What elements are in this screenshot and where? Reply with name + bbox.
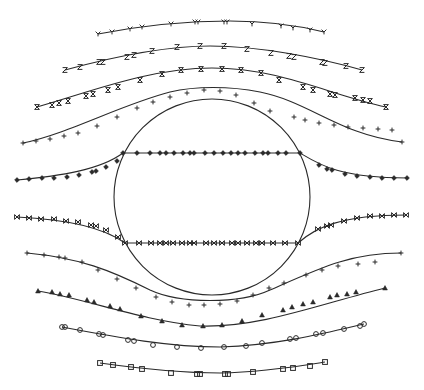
marker-Y-icon xyxy=(291,26,296,31)
marker-diamond-icon xyxy=(368,175,373,180)
marker-triangle-icon xyxy=(354,290,359,294)
marker-hourglass-icon xyxy=(64,219,69,224)
marker-+-icon xyxy=(332,123,337,128)
marker-triangle-icon xyxy=(118,307,123,311)
marker-diamond-icon xyxy=(203,151,208,156)
marker-+-icon xyxy=(135,106,140,111)
marker-triangle-icon xyxy=(345,292,350,296)
marker-+-icon xyxy=(57,255,62,260)
marker-+-icon xyxy=(390,128,395,133)
marker-diamond-icon xyxy=(317,163,322,168)
marker-X-icon xyxy=(116,85,121,90)
marker-Z-icon xyxy=(292,55,297,60)
marker-octagon-icon xyxy=(260,341,265,346)
circular-obstacle xyxy=(114,99,310,295)
marker-+-icon xyxy=(356,262,361,267)
marker-X-icon xyxy=(66,99,71,104)
marker-+-icon xyxy=(168,95,173,100)
marker-diamond-icon xyxy=(266,151,271,156)
marker-triangle-icon xyxy=(50,290,55,294)
marker-diamond-icon xyxy=(65,175,70,180)
streamlines-group xyxy=(15,20,410,377)
marker-triangle-icon xyxy=(220,323,225,327)
marker-X-icon xyxy=(220,67,225,72)
marker-hourglass-icon xyxy=(76,220,81,225)
marker-X-icon xyxy=(199,67,204,72)
marker-triangle-icon xyxy=(281,308,286,312)
marker-diamond-icon xyxy=(40,176,45,181)
marker-octagon-icon xyxy=(151,343,156,348)
marker-X-icon xyxy=(84,94,89,99)
marker-diamond-icon xyxy=(90,170,95,175)
marker-triangle-icon xyxy=(335,293,340,297)
streamline-s7 xyxy=(25,251,404,308)
marker-+-icon xyxy=(252,101,257,106)
marker-diamond-icon xyxy=(405,176,410,181)
marker-+-icon xyxy=(62,134,67,139)
marker-diamond-icon xyxy=(236,151,241,156)
marker-Z-icon xyxy=(132,53,137,58)
marker-diamond-icon xyxy=(77,173,82,178)
streamline-s10 xyxy=(98,360,328,377)
marker-+-icon xyxy=(115,115,120,120)
marker-+-icon xyxy=(76,131,81,136)
marker-diamond-icon xyxy=(148,151,153,156)
marker-+-icon xyxy=(292,115,297,120)
marker-X-icon xyxy=(138,78,143,83)
marker-diamond-icon xyxy=(276,151,281,156)
marker-triangle-icon xyxy=(290,305,295,309)
streamline-path xyxy=(27,253,401,301)
marker-square-icon xyxy=(140,367,145,372)
marker-+-icon xyxy=(170,300,175,305)
streamline-s5 xyxy=(15,151,410,183)
marker-triangle-icon xyxy=(108,304,113,308)
marker-+-icon xyxy=(115,277,120,282)
marker-Z-icon xyxy=(287,54,292,59)
marker-+-icon xyxy=(268,109,273,114)
marker-diamond-icon xyxy=(284,151,289,156)
marker-+-icon xyxy=(400,140,405,145)
marker-diamond-icon xyxy=(392,176,397,181)
marker-+-icon xyxy=(361,126,366,131)
marker-X-icon xyxy=(106,88,111,93)
marker-diamond-icon xyxy=(135,151,140,156)
marker-triangle-icon xyxy=(85,298,90,302)
marker-diamond-icon xyxy=(172,151,177,156)
marker-diamond-icon xyxy=(243,151,248,156)
marker-+-icon xyxy=(25,251,30,256)
marker-+-icon xyxy=(303,118,308,123)
marker-diamond-icon xyxy=(104,165,109,170)
marker-triangle-icon xyxy=(383,286,388,290)
streamline-path xyxy=(62,324,364,347)
marker-+-icon xyxy=(48,137,53,142)
marker-triangle-icon xyxy=(58,292,63,296)
marker-diamond-icon xyxy=(380,176,385,181)
marker-+-icon xyxy=(218,302,223,307)
streamline-s8 xyxy=(36,286,388,328)
marker-+-icon xyxy=(218,89,223,94)
marker-Y-icon xyxy=(250,22,255,27)
marker-+-icon xyxy=(373,260,378,265)
marker-diamond-icon xyxy=(212,151,217,156)
marker-diamond-icon xyxy=(192,151,197,156)
marker-diamond-icon xyxy=(27,177,32,182)
marker-X-icon xyxy=(277,78,282,83)
marker-Z-icon xyxy=(269,51,274,56)
marker-triangle-icon xyxy=(301,302,306,306)
marker-diamond-icon xyxy=(253,151,258,156)
streamline-path xyxy=(17,153,407,180)
marker-+-icon xyxy=(187,303,192,308)
marker-hourglass-icon xyxy=(89,223,94,228)
marker-diamond-icon xyxy=(15,178,20,183)
marker-+-icon xyxy=(202,88,207,93)
marker-diamond-icon xyxy=(229,151,234,156)
marker-diamond-icon xyxy=(94,169,99,174)
marker-+-icon xyxy=(399,251,404,256)
marker-X-icon xyxy=(328,92,333,97)
marker-hourglass-icon xyxy=(104,228,109,233)
marker-+-icon xyxy=(80,260,85,265)
marker-X-icon xyxy=(301,85,306,90)
marker-+-icon xyxy=(376,127,381,132)
marker-diamond-icon xyxy=(181,151,186,156)
marker-triangle-icon xyxy=(311,300,316,304)
